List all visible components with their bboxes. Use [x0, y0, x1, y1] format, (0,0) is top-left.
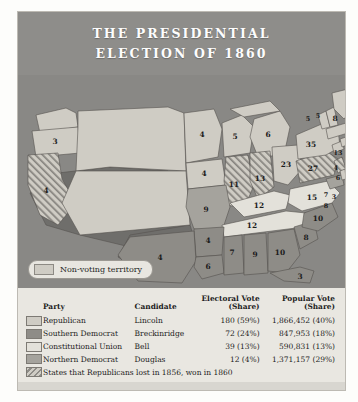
label-georgia: 10 — [275, 248, 285, 257]
label-vermont: 5 — [306, 115, 310, 123]
label-new-york: 35 — [306, 140, 316, 149]
electoral-southern-democrat: 72 (24%) — [192, 327, 262, 340]
party-republican: Republican — [43, 315, 135, 328]
state-wisconsin — [222, 115, 254, 157]
us-map-svg: 3 4 4 4 5 6 11 13 23 9 12 12 4 4 6 7 9 1… — [18, 75, 345, 288]
label-rhode-island: 4 — [334, 164, 339, 172]
candidate-bell: Bell — [135, 340, 192, 353]
label-wisconsin: 5 — [232, 132, 237, 141]
party-constitutional-union: Constitutional Union — [43, 340, 135, 353]
party-northern-democrat: Northern Democrat — [43, 353, 135, 366]
label-maine: 8 — [332, 114, 337, 123]
label-michigan: 6 — [265, 130, 270, 139]
label-illinois: 11 — [229, 180, 239, 189]
header-popular-line2: (Share) — [262, 303, 335, 311]
swatch-northern-democrat — [26, 353, 43, 366]
table-row: Constitutional Union Bell 39 (13%) 590,8… — [26, 340, 337, 353]
swatch-constitutional-union — [26, 340, 43, 353]
label-pennsylvania: 27 — [308, 164, 318, 173]
label-kentucky: 12 — [254, 201, 264, 210]
territory-legend-label: Non-voting territory — [60, 265, 142, 274]
candidate-lincoln: Lincoln — [135, 315, 192, 328]
table-row: Northern Democrat Douglas 12 (4%) 1,371,… — [26, 353, 337, 366]
non-voting-territory-legend: Non-voting territory — [28, 260, 153, 279]
header-electoral: Electoral Vote (Share) — [192, 295, 262, 315]
popular-southern-democrat: 847,953 (18%) — [262, 327, 337, 340]
label-missouri: 9 — [203, 205, 208, 214]
header-popular: Popular Vote (Share) — [262, 295, 337, 315]
table-row: Republican Lincoln 180 (59%) 1,866,452 (… — [26, 315, 337, 328]
electoral-republican: 180 (59%) — [192, 315, 262, 328]
election-map: 3 4 4 4 5 6 11 13 23 9 12 12 4 4 6 7 9 1… — [18, 75, 345, 288]
label-arkansas: 4 — [205, 236, 210, 245]
state-plains-upper — [76, 107, 186, 171]
candidate-douglas: Douglas — [135, 353, 192, 366]
label-minnesota: 4 — [199, 130, 204, 139]
label-iowa: 4 — [201, 169, 206, 178]
results-table-container: Party Candidate Electoral Vote (Share) P… — [18, 288, 345, 382]
map-panel: THE PRESIDENTIAL ELECTION OF 1860 — [18, 12, 345, 390]
label-texas: 4 — [157, 253, 162, 262]
results-table: Party Candidate Electoral Vote (Share) P… — [26, 295, 337, 378]
footnote-flipped-states: States that Republicans lost in 1856, wo… — [43, 366, 337, 379]
label-ohio: 23 — [281, 160, 291, 169]
label-connecticut: 6 — [336, 174, 341, 182]
swatch-southern-democrat — [26, 327, 43, 340]
candidate-breckinridge: Breckinridge — [135, 327, 192, 340]
label-alabama: 9 — [252, 250, 257, 259]
territory-swatch — [34, 264, 54, 275]
title-bar: THE PRESIDENTIAL ELECTION OF 1860 — [18, 12, 345, 75]
swatch-flipped-states — [26, 366, 43, 379]
label-mississippi: 7 — [229, 248, 234, 257]
state-plains-mid — [62, 171, 190, 235]
label-california: 4 — [43, 186, 48, 195]
label-tennessee: 12 — [247, 221, 257, 230]
label-delaware: 3 — [332, 193, 337, 201]
label-indiana: 13 — [255, 174, 265, 183]
page-title-line1: THE PRESIDENTIAL — [92, 26, 270, 41]
label-north-carolina: 10 — [313, 214, 323, 223]
label-oregon: 3 — [52, 137, 57, 146]
header-electoral-line2: (Share) — [192, 303, 260, 311]
label-louisiana: 6 — [205, 262, 210, 271]
label-new-jersey: 7 — [324, 191, 328, 199]
popular-republican: 1,866,452 (40%) — [262, 315, 337, 328]
table-header-row: Party Candidate Electoral Vote (Share) P… — [26, 295, 337, 315]
electoral-northern-democrat: 12 (4%) — [192, 353, 262, 366]
label-virginia: 15 — [307, 193, 317, 202]
label-maryland: 8 — [324, 202, 329, 210]
party-southern-democrat: Southern Democrat — [43, 327, 135, 340]
page-title-line2: ELECTION OF 1860 — [95, 46, 267, 61]
swatch-republican — [26, 315, 43, 328]
header-party: Party — [43, 295, 135, 315]
header-candidate: Candidate — [135, 295, 192, 315]
table-row: Southern Democrat Breckinridge 72 (24%) … — [26, 327, 337, 340]
popular-northern-democrat: 1,371,157 (29%) — [262, 353, 337, 366]
electoral-constitutional-union: 39 (13%) — [192, 340, 262, 353]
table-footnote-row: States that Republicans lost in 1856, wo… — [26, 366, 337, 379]
popular-constitutional-union: 590,831 (13%) — [262, 340, 337, 353]
label-new-hampshire: 5 — [316, 112, 320, 120]
header-swatch — [26, 295, 43, 315]
label-massachusetts: 13 — [334, 149, 343, 157]
label-south-carolina: 8 — [303, 233, 308, 242]
label-florida: 3 — [297, 272, 302, 281]
